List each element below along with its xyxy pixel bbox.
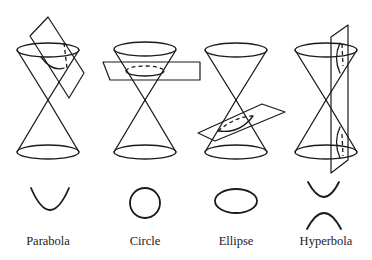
ellipse-curve <box>215 189 257 213</box>
label-hyperbola: Hyperbola <box>281 234 371 249</box>
label-circle: Circle <box>100 234 190 249</box>
circle-cone <box>103 42 200 159</box>
label-parabola: Parabola <box>3 234 93 249</box>
conic-diagram <box>0 0 372 260</box>
circle-curve <box>130 188 160 218</box>
parabola-cone <box>17 17 84 159</box>
hyperbola-plane <box>331 25 348 173</box>
hyperbola-cone <box>295 25 357 173</box>
hyperbola-lower-branch <box>307 213 341 229</box>
parabola-curve <box>31 188 69 210</box>
ellipse-cone <box>198 43 285 159</box>
hyperbola-upper-branch <box>308 182 339 197</box>
circle-plane <box>103 62 200 80</box>
label-ellipse: Ellipse <box>191 234 281 249</box>
conic-sections-figure: Parabola Circle Ellipse Hyperbola <box>0 0 372 260</box>
